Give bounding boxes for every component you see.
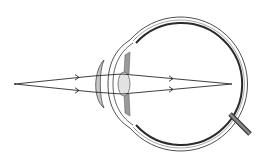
eye-diagram — [0, 0, 266, 158]
object-point — [14, 83, 16, 85]
eye-lens — [118, 72, 130, 96]
corrective-lens — [96, 60, 104, 108]
retina — [136, 23, 242, 145]
optic-nerve — [230, 114, 250, 134]
